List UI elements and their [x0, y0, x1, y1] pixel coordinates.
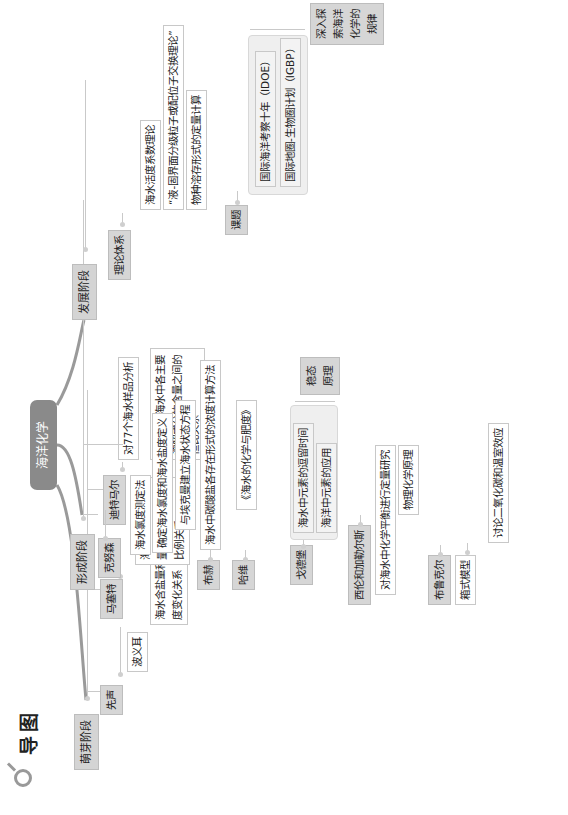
leaf-physical-chemistry[interactable]: 物理化学原理: [398, 445, 419, 515]
node-knudsen[interactable]: 克努森: [98, 538, 121, 578]
leaf-co2-greenhouse[interactable]: 讨论二氧化碳和温室效应: [488, 423, 509, 543]
leaf-state-equation[interactable]: 与埃克曼建立海水状态方程: [175, 400, 196, 530]
leaf-chlorinity-method[interactable]: 海水氯度测定法: [130, 475, 151, 555]
node-topics[interactable]: 课题: [225, 205, 248, 235]
note-explore-laws[interactable]: 深入探索海洋化学的规律: [310, 3, 384, 45]
magnifier-icon: [14, 769, 32, 787]
page-title: 导图: [14, 709, 41, 755]
leaf-interface-theory[interactable]: “液-固界面分级粒子或配位子交换理论”: [163, 25, 184, 210]
node-buch[interactable]: 布赫: [197, 560, 220, 590]
leaf-activity-coefficient[interactable]: 海水活度系数理论: [140, 120, 161, 210]
node-harvey[interactable]: 哈维: [232, 560, 255, 590]
node-sillen[interactable]: 西伦和加勒尔斯: [348, 525, 371, 605]
leaf-harvey-book[interactable]: 《海水的化学与肥度》: [236, 400, 257, 510]
note-steady-state[interactable]: 稳态原理: [300, 357, 340, 395]
mind-map-canvas: 导图 海洋化学 萌芽阶段 先声 波义耳 海水含盐量和海水密度变化关系 马塞特 海…: [0, 0, 568, 815]
node-xiansheng[interactable]: 先声: [100, 685, 123, 715]
root-node[interactable]: 海洋化学: [30, 400, 57, 490]
node-masaite[interactable]: 马塞特: [100, 579, 123, 619]
node-broecker[interactable]: 布鲁克尔: [428, 555, 451, 605]
leaf-species-calculation[interactable]: 物种溶存形式的定量计算: [186, 90, 207, 210]
branch-formation[interactable]: 形成阶段: [70, 534, 95, 590]
leaf-carbonate-method[interactable]: 海水中碳酸盐各存在形式的浓度计算方法: [200, 360, 221, 550]
leaf-idoe[interactable]: 国际海洋考察十年（IDOE）: [255, 51, 276, 187]
node-ditmar[interactable]: 迪特马尔: [103, 475, 126, 525]
leaf-element-application[interactable]: 海洋中元素的应用: [316, 443, 337, 533]
leaf-chlorinity-salinity[interactable]: 确定海水氯度和海水盐度定义: [152, 413, 173, 553]
leaf-box-model[interactable]: 箱式模型: [455, 555, 476, 605]
node-goldberg[interactable]: 戈德堡: [290, 545, 313, 585]
leaf-igbp[interactable]: 国际地圈-生物圈计划（IGBP）: [280, 38, 301, 187]
node-theory[interactable]: 理论体系: [108, 230, 131, 280]
branch-sprout[interactable]: 萌芽阶段: [74, 714, 99, 770]
leaf-equilibrium-study[interactable]: 对海水中化学平衡进行定量研究: [375, 445, 396, 595]
branch-development[interactable]: 发展阶段: [72, 264, 97, 320]
leaf-boyle[interactable]: 波义耳: [127, 632, 148, 672]
leaf-residence-time[interactable]: 海水中元素的逗留时间: [293, 423, 314, 533]
